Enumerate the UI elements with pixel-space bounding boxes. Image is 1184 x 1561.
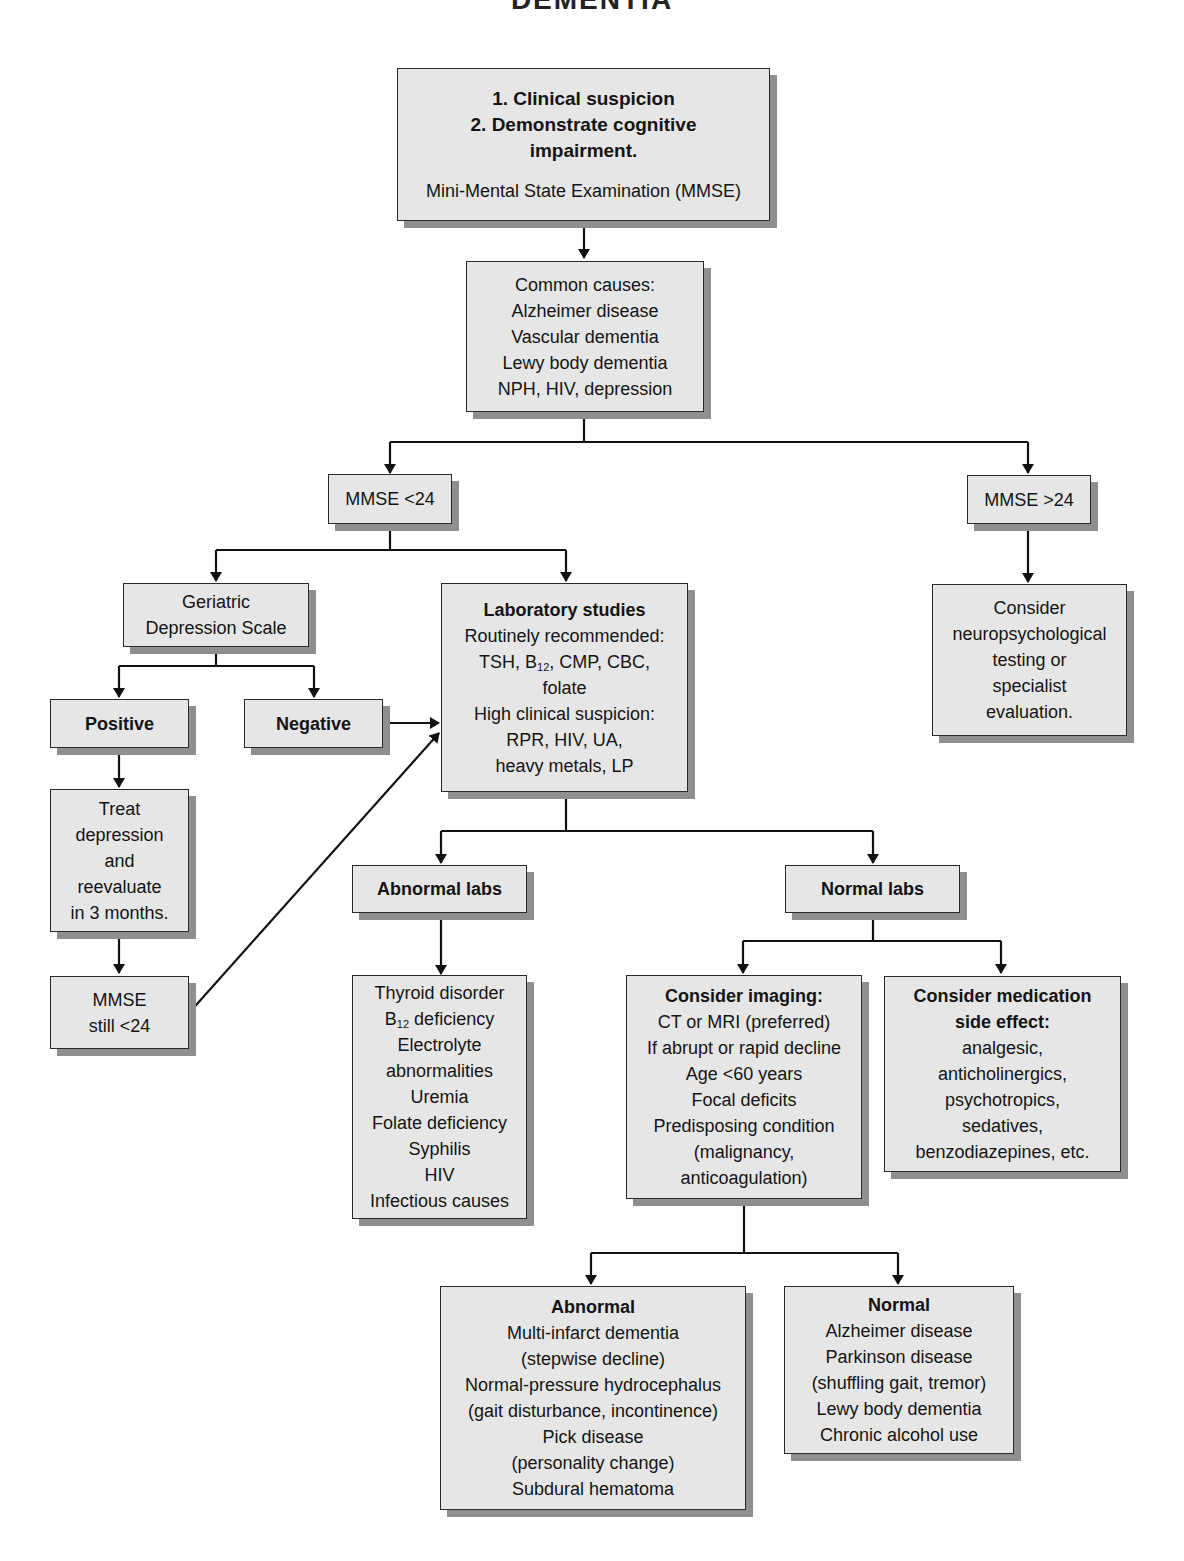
medication-heading: side effect: [955, 1009, 1050, 1035]
imaging-abnormal-item: Pick disease [542, 1424, 643, 1450]
start-step-1: 1. Clinical suspicion [492, 86, 675, 112]
imaging-item: (malignancy, [694, 1139, 795, 1165]
treat-line: depression [75, 822, 163, 848]
abnormal-cause-b12: B12 deficiency [385, 1006, 494, 1032]
neuropsych-line: Consider [993, 595, 1065, 621]
imaging-heading: Consider imaging: [665, 983, 823, 1009]
mmse-still-line: still <24 [89, 1013, 151, 1039]
imaging-item: Age <60 years [686, 1061, 803, 1087]
treat-depression-box: Treat depression and reevaluate in 3 mon… [50, 789, 189, 932]
lab-routine-tests: TSH, B12, CMP, CBC, [479, 649, 650, 675]
start-step-2-cont: impairment. [530, 138, 638, 164]
imaging-abnormal-box: Abnormal Multi-infarct dementia (stepwis… [440, 1286, 746, 1510]
mmse-low-label: MMSE <24 [345, 486, 435, 512]
abnormal-cause-item: Thyroid disorder [374, 980, 504, 1006]
common-causes-box: Common causes: Alzheimer disease Vascula… [466, 261, 704, 412]
abnormal-cause-item: Electrolyte [397, 1032, 481, 1058]
imaging-normal-heading: Normal [868, 1292, 930, 1318]
lab-high-tests: heavy metals, LP [495, 753, 633, 779]
normal-labs-label: Normal labs [821, 876, 924, 902]
gds-line: Geriatric [182, 589, 250, 615]
b12-subscript: 12 [397, 1018, 409, 1030]
abnormal-cause-item: Uremia [410, 1084, 468, 1110]
medication-item: anticholinergics, [938, 1061, 1067, 1087]
start-box: 1. Clinical suspicion 2. Demonstrate cog… [397, 68, 770, 221]
b12-subscript: 12 [537, 661, 549, 673]
negative-label: Negative [276, 711, 351, 737]
imaging-normal-item: (shuffling gait, tremor) [812, 1370, 987, 1396]
imaging-abnormal-item: Subdural hematoma [512, 1476, 674, 1502]
mmse-still-low-box: MMSE still <24 [50, 976, 189, 1049]
b12-text: B [385, 1009, 397, 1029]
treat-line: Treat [99, 796, 140, 822]
lab-routine-text: , CMP, CBC, [549, 652, 650, 672]
neuropsych-line: specialist [992, 673, 1066, 699]
abnormal-cause-item: abnormalities [386, 1058, 493, 1084]
positive-box: Positive [50, 699, 189, 748]
medication-item: psychotropics, [945, 1087, 1060, 1113]
consider-imaging-box: Consider imaging: CT or MRI (preferred) … [626, 975, 862, 1199]
start-step-2: 2. Demonstrate cognitive [471, 112, 697, 138]
gds-box: Geriatric Depression Scale [123, 583, 309, 647]
treat-line: and [104, 848, 134, 874]
medication-item: benzodiazepines, etc. [915, 1139, 1089, 1165]
imaging-item: Focal deficits [691, 1087, 796, 1113]
imaging-abnormal-heading: Abnormal [551, 1294, 635, 1320]
abnormal-cause-item: Syphilis [408, 1136, 470, 1162]
treat-line: reevaluate [77, 874, 161, 900]
imaging-item: If abrupt or rapid decline [647, 1035, 841, 1061]
neuropsych-box: Consider neuropsychological testing or s… [932, 584, 1127, 736]
lab-studies-heading: Laboratory studies [483, 597, 645, 623]
abnormal-cause-item: HIV [424, 1162, 454, 1188]
abnormal-cause-item: Folate deficiency [372, 1110, 507, 1136]
abnormal-labs-box: Abnormal labs [352, 865, 527, 913]
imaging-abnormal-item: (gait disturbance, incontinence) [468, 1398, 718, 1424]
lab-high-tests: RPR, HIV, UA, [506, 727, 622, 753]
normal-labs-box: Normal labs [785, 865, 960, 913]
imaging-abnormal-item: (stepwise decline) [521, 1346, 665, 1372]
neuropsych-line: testing or [992, 647, 1066, 673]
imaging-normal-item: Alzheimer disease [825, 1318, 972, 1344]
treat-line: in 3 months. [70, 900, 168, 926]
imaging-normal-item: Lewy body dementia [816, 1396, 981, 1422]
lab-routine-label: Routinely recommended: [464, 623, 664, 649]
imaging-item: CT or MRI (preferred) [658, 1009, 831, 1035]
lab-routine-folate: folate [542, 675, 586, 701]
common-cause-item: Lewy body dementia [502, 350, 667, 376]
mmse-label: Mini-Mental State Examination (MMSE) [426, 178, 741, 204]
imaging-item: Predisposing condition [653, 1113, 834, 1139]
lab-studies-box: Laboratory studies Routinely recommended… [441, 583, 688, 792]
imaging-abnormal-item: Normal-pressure hydrocephalus [465, 1372, 721, 1398]
abnormal-cause-item: Infectious causes [370, 1188, 509, 1214]
common-cause-item: Alzheimer disease [511, 298, 658, 324]
gds-line: Depression Scale [145, 615, 286, 641]
mmse-high-label: MMSE >24 [984, 487, 1074, 513]
common-cause-item: Vascular dementia [511, 324, 659, 350]
mmse-still-line: MMSE [93, 987, 147, 1013]
abnormal-labs-label: Abnormal labs [377, 876, 502, 902]
imaging-normal-box: Normal Alzheimer disease Parkinson disea… [784, 1286, 1014, 1454]
mmse-high-box: MMSE >24 [967, 475, 1091, 524]
abnormal-lab-causes-box: Thyroid disorder B12 deficiency Electrol… [352, 975, 527, 1219]
imaging-abnormal-item: (personality change) [511, 1450, 674, 1476]
negative-box: Negative [244, 699, 383, 748]
neuropsych-line: neuropsychological [952, 621, 1106, 647]
positive-label: Positive [85, 711, 154, 737]
imaging-abnormal-item: Multi-infarct dementia [507, 1320, 679, 1346]
imaging-normal-item: Parkinson disease [825, 1344, 972, 1370]
imaging-item: anticoagulation) [680, 1165, 807, 1191]
b12-text: deficiency [409, 1009, 494, 1029]
imaging-normal-item: Chronic alcohol use [820, 1422, 978, 1448]
medication-item: analgesic, [962, 1035, 1043, 1061]
neuropsych-line: evaluation. [986, 699, 1073, 725]
medication-heading: Consider medication [913, 983, 1091, 1009]
common-causes-heading: Common causes: [515, 272, 655, 298]
lab-high-label: High clinical suspicion: [474, 701, 655, 727]
medication-side-effect-box: Consider medication side effect: analges… [884, 976, 1121, 1172]
common-cause-item: NPH, HIV, depression [498, 376, 672, 402]
lab-routine-text: TSH, B [479, 652, 537, 672]
medication-item: sedatives, [962, 1113, 1043, 1139]
mmse-low-box: MMSE <24 [328, 474, 452, 524]
